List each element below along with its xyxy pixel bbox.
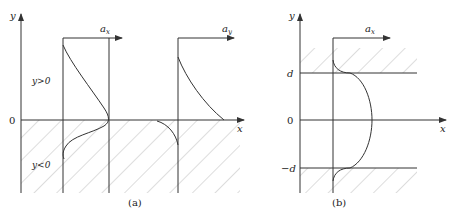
panel-a: y x 0 y>0 y<0 ax ay (a) bbox=[9, 10, 244, 208]
panel-a-caption: (a) bbox=[128, 197, 142, 208]
panel-b-caption: (b) bbox=[332, 197, 346, 208]
y-axis-label: y bbox=[9, 10, 16, 21]
lower-boundary-label: −d bbox=[281, 163, 296, 174]
x-axis-label: x bbox=[237, 123, 243, 134]
x-axis-label: x bbox=[440, 123, 446, 134]
panel-b: y x 0 d −d ax (b) bbox=[281, 10, 446, 208]
profile2-label-sub: y bbox=[227, 28, 233, 36]
profile1-label: ax bbox=[100, 23, 110, 36]
origin-label: 0 bbox=[287, 115, 293, 126]
y-axis-label: y bbox=[288, 10, 295, 21]
profile1-label-sub: x bbox=[106, 28, 110, 36]
field-distribution-diagram: y x 0 y>0 y<0 ax ay (a) y x 0 bbox=[0, 0, 456, 212]
lower-medium-hatch bbox=[300, 168, 417, 193]
profile-label: ax bbox=[365, 23, 375, 36]
lower-medium-hatch bbox=[21, 120, 240, 193]
profile-label-sub: x bbox=[371, 28, 375, 36]
profile2-label: ay bbox=[222, 23, 233, 36]
upper-medium-hatch bbox=[300, 48, 417, 73]
profile2-upper-curve bbox=[178, 57, 224, 120]
origin-label: 0 bbox=[9, 115, 15, 126]
region-lower-label: y<0 bbox=[31, 160, 51, 170]
upper-boundary-label: d bbox=[287, 68, 293, 79]
region-upper-label: y>0 bbox=[31, 76, 51, 86]
